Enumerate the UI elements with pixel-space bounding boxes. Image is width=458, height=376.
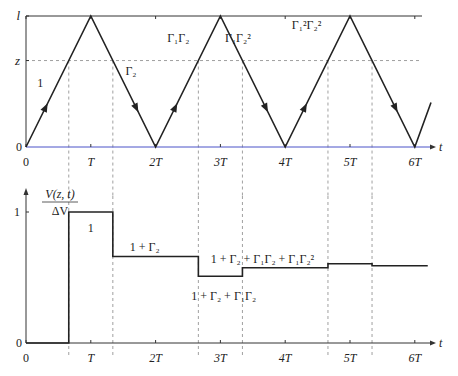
y-tick-label-1: 1 [14, 205, 20, 219]
bottom-x-tick-label: T [87, 351, 95, 365]
bottom-x-tick-label: 2T [149, 351, 163, 365]
direction-arrow-icon [390, 103, 400, 114]
top-x-tick-label: T [87, 155, 95, 169]
voltage-step-curve [26, 212, 428, 343]
top-x-tick-label: 6T [408, 155, 422, 169]
y-label-l: l [16, 8, 20, 23]
direction-arrow-icon [300, 102, 310, 113]
top-x-tick-label: 3T [213, 155, 228, 169]
segment-label: Γ₂ [125, 64, 136, 78]
step-labels: 11 + Γ₂1 + Γ₂ + Γ₁Γ₂1 + Γ₂ + Γ₁Γ₂ + Γ₁Γ₂… [88, 221, 315, 303]
direction-arrow-icon [41, 102, 51, 113]
bounce-diagram-figure: l z 0 t 0T2T3T4T5T6T 1Γ₂Γ₁Γ₂Γ₁Γ₂²Γ₁²Γ₂² … [0, 0, 458, 376]
z-crossing-guides [69, 61, 372, 196]
top-x-axis-arrow-icon [430, 145, 436, 150]
top-x-axis-label: t [439, 140, 443, 154]
segment-labels: 1Γ₂Γ₁Γ₂Γ₁Γ₂²Γ₁²Γ₂² [37, 18, 321, 90]
direction-arrow-icon [261, 103, 271, 114]
y-label-z: z [14, 53, 20, 68]
bottom-x-tick-label: 4T [279, 351, 293, 365]
step-label: 1 + Γ₂ + Γ₁Γ₂ [191, 289, 256, 303]
top-x-tick-labels: 0T2T3T4T5T6T [23, 155, 422, 169]
top-x-tick-label: 4T [279, 155, 293, 169]
segment-label: Γ₁Γ₂ [167, 31, 189, 45]
top-x-ticks [26, 16, 415, 147]
bottom-x-tick-label: 3T [213, 351, 228, 365]
segment-label: Γ₁²Γ₂² [292, 18, 322, 32]
bottom-x-axis-arrow-icon [430, 341, 436, 346]
segment-label: 1 [37, 76, 43, 90]
step-label: 1 [88, 221, 94, 235]
segment-label: Γ₁Γ₂² [225, 31, 251, 45]
top-x-tick-label: 2T [149, 155, 163, 169]
top-x-tick-label: 5T [344, 155, 358, 169]
step-label: 1 + Γ₂ + Γ₁Γ₂ + Γ₁Γ₂² [211, 252, 315, 266]
bottom-x-tick-label: 0 [23, 351, 29, 365]
direction-arrows [41, 102, 401, 114]
top-x-tick-label: 0 [23, 155, 29, 169]
bottom-x-tick-label: 5T [344, 351, 358, 365]
lattice-diagram: l z 0 t 0T2T3T4T5T6T 1Γ₂Γ₁Γ₂Γ₁Γ₂²Γ₁²Γ₂² [14, 8, 443, 196]
bottom-x-tick-label: 6T [408, 351, 422, 365]
direction-arrow-icon [170, 102, 180, 113]
y-axis-label-numerator: V(z, t) [45, 187, 74, 201]
y-label-zero: 0 [16, 140, 22, 154]
bottom-x-tick-labels: 0T2T3T4T5T6T [23, 351, 422, 365]
y-axis-label-denominator: ΔV [52, 204, 69, 218]
voltage-step-plot: 0 1 V(z, t) ΔV t 0T2T3T4T5T6T 11 + Γ₂1 +… [14, 187, 443, 365]
y-tick-label-0: 0 [16, 336, 22, 350]
direction-arrow-icon [131, 103, 141, 114]
y-axis-label-den-text: ΔV [52, 204, 69, 218]
step-label: 1 + Γ₂ [130, 240, 160, 254]
bottom-y-axis-arrow-icon [24, 188, 29, 195]
bottom-x-axis-label: t [439, 336, 443, 350]
